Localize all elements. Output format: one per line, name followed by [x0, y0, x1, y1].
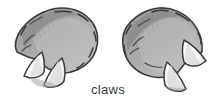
left-claw [15, 8, 97, 88]
claws-figure: claws [0, 0, 216, 107]
right-claw [123, 8, 206, 91]
claws-illustration [0, 0, 216, 107]
